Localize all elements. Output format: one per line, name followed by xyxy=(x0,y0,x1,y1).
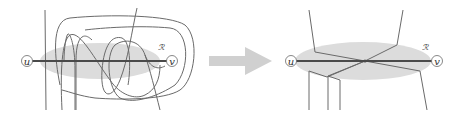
curve xyxy=(328,76,340,110)
node-v-label: v xyxy=(434,56,440,67)
region-label-left: ℛ xyxy=(158,43,165,52)
left-panel: u v ℛ xyxy=(22,8,195,110)
node-v-label: v xyxy=(169,56,175,67)
transform-arrow xyxy=(209,47,272,75)
node-u-label: u xyxy=(288,56,294,67)
region-label-right: ℛ xyxy=(422,43,429,52)
crossing-point xyxy=(364,60,367,63)
diagram: u v ℛ u v ℛ xyxy=(0,0,464,120)
arrow-right-icon xyxy=(209,47,272,75)
right-panel: u v ℛ xyxy=(286,10,443,110)
node-u-label: u xyxy=(24,56,30,67)
